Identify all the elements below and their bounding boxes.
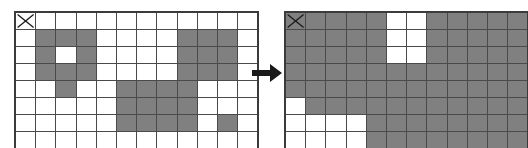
grid-cell [238, 47, 257, 63]
grid-cell [77, 81, 96, 97]
grid-cell [326, 64, 345, 80]
grid-cell [157, 64, 176, 80]
grid-cell [488, 115, 507, 131]
grid-cell [198, 13, 217, 29]
grid-cell [367, 64, 386, 80]
grid-cell [137, 115, 156, 131]
grid-cell [427, 30, 446, 46]
grid-cell [367, 30, 386, 46]
grid-cell [427, 115, 446, 131]
grid-cell [367, 98, 386, 114]
grid-cell [488, 47, 507, 63]
grid-cell [178, 132, 197, 148]
grid-cell [468, 13, 487, 29]
grid-cell [427, 64, 446, 80]
grid-cell [137, 132, 156, 148]
grid-cell [178, 64, 197, 80]
grid-cell [286, 81, 305, 97]
grid-cell [178, 115, 197, 131]
grid-cell [367, 13, 386, 29]
grid-cell [36, 115, 55, 131]
grid-cell [448, 64, 467, 80]
grid-cell [286, 47, 305, 63]
grid-cell [448, 98, 467, 114]
grid-cell [488, 81, 507, 97]
grid-cell [97, 132, 116, 148]
grid-cell [218, 132, 237, 148]
grid-cell [117, 132, 136, 148]
grid-cell [468, 47, 487, 63]
grid-cell [347, 115, 366, 131]
grid-cell [218, 98, 237, 114]
grid-cell [218, 47, 237, 63]
grid-cell [488, 64, 507, 80]
grid-cell [157, 115, 176, 131]
grid-cell [56, 13, 75, 29]
grid-cell [16, 64, 35, 80]
grid-cell [286, 115, 305, 131]
grid-cell [238, 13, 257, 29]
grid-cell [117, 64, 136, 80]
grid-cell [117, 81, 136, 97]
grid-cell [427, 98, 446, 114]
grid-cell [97, 81, 116, 97]
grid-cell [36, 64, 55, 80]
grid-cell [448, 81, 467, 97]
grid-cell [407, 30, 426, 46]
grid-cell [306, 30, 325, 46]
grid-cell [238, 132, 257, 148]
grid-cell [306, 98, 325, 114]
grid-cell [508, 64, 527, 80]
grid-cell [178, 30, 197, 46]
grid-cell [97, 98, 116, 114]
grid-cell [347, 132, 366, 148]
grid-cell [468, 132, 487, 148]
grid-cell [77, 64, 96, 80]
grid-cell [218, 30, 237, 46]
grid-cell [117, 13, 136, 29]
grid-cell [218, 13, 237, 29]
grid-cell [36, 30, 55, 46]
grid-cell [77, 13, 96, 29]
grid-cell [157, 81, 176, 97]
grid-cell [218, 115, 237, 131]
grid-cell [286, 132, 305, 148]
grid-cell [347, 13, 366, 29]
grid-cell [468, 30, 487, 46]
grid-cell [407, 115, 426, 131]
grid-cell [448, 30, 467, 46]
grid-cell [488, 132, 507, 148]
grid-cell [198, 132, 217, 148]
grid-cell [306, 132, 325, 148]
grid-cell [508, 47, 527, 63]
grid-cell [97, 115, 116, 131]
grid-cell [427, 47, 446, 63]
grid-cell [407, 13, 426, 29]
grid-cell [347, 30, 366, 46]
grid-cell [36, 13, 55, 29]
grid-cell [326, 98, 345, 114]
grid-cell [137, 98, 156, 114]
grid-cell [97, 30, 116, 46]
x-mark-icon [16, 13, 35, 29]
grid-cell [117, 98, 136, 114]
grid-transformation-figure [0, 0, 528, 148]
grid-cell [218, 81, 237, 97]
grid-cell [97, 47, 116, 63]
grid-cell [56, 81, 75, 97]
grid-cell [508, 132, 527, 148]
grid-cell [56, 30, 75, 46]
grid-cell [77, 115, 96, 131]
grid-cell [198, 30, 217, 46]
grid-cell [387, 132, 406, 148]
transform-arrow-icon [252, 62, 282, 84]
grid-cell [326, 30, 345, 46]
grid-cell [387, 115, 406, 131]
grid-cell [326, 47, 345, 63]
grid-cell [56, 47, 75, 63]
grid-cell [448, 47, 467, 63]
grid-cell [367, 47, 386, 63]
grid-cell [56, 132, 75, 148]
grid-cell [97, 13, 116, 29]
grid-cell [16, 30, 35, 46]
